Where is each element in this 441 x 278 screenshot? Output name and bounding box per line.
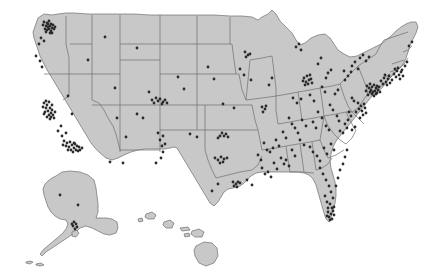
site-dot [386, 84, 389, 87]
site-dot [48, 114, 51, 117]
site-dot [52, 114, 55, 117]
site-dot [333, 149, 336, 152]
site-dot [312, 151, 315, 154]
site-dot [74, 228, 77, 231]
site-dot [246, 179, 249, 182]
site-dot [325, 77, 328, 80]
site-dot [69, 141, 72, 144]
site-dot [122, 162, 125, 165]
site-dot [347, 119, 350, 122]
site-dot [217, 159, 220, 162]
site-dot [41, 66, 44, 69]
site-dot [243, 74, 246, 77]
site-dot [227, 136, 230, 139]
site-dot [73, 221, 76, 224]
site-dot [363, 103, 366, 106]
site-dot [213, 78, 216, 81]
site-dot [359, 57, 362, 60]
site-dot [43, 21, 46, 24]
site-dot [272, 147, 275, 150]
site-dot [332, 109, 335, 112]
site-dot [332, 210, 335, 213]
site-dot [46, 104, 49, 107]
site-dot [333, 206, 336, 209]
site-dot [323, 147, 326, 150]
site-dot [337, 177, 340, 180]
site-dot [245, 56, 248, 59]
site-dot [382, 83, 385, 86]
site-dot [283, 163, 286, 166]
site-dot [326, 201, 329, 204]
site-dot [361, 110, 364, 113]
site-dot [45, 107, 48, 110]
site-dot [350, 115, 353, 118]
site-dot [39, 60, 42, 63]
site-dot [378, 86, 381, 89]
site-dot [62, 144, 65, 147]
site-dot [264, 108, 267, 111]
site-dot [54, 111, 57, 114]
site-dot [311, 82, 314, 85]
site-dot [67, 95, 70, 98]
site-dot [324, 91, 327, 94]
site-dot [51, 109, 54, 112]
site-dot [346, 127, 349, 130]
site-dot [276, 168, 279, 171]
site-dot [136, 47, 139, 50]
site-dot [40, 37, 43, 40]
site-dot [347, 75, 350, 78]
hawaii-inset [138, 212, 218, 266]
site-dot [351, 129, 354, 132]
site-dot [219, 135, 222, 138]
site-dot [324, 195, 327, 198]
site-dot [63, 140, 66, 143]
site-dot [233, 107, 236, 110]
site-dot [331, 218, 334, 221]
site-dot [295, 46, 298, 49]
site-dot [404, 65, 407, 68]
site-dot [343, 70, 346, 73]
site-dot [125, 136, 128, 139]
site-dot [61, 135, 64, 138]
maui-island [191, 229, 204, 237]
site-dot [353, 100, 356, 103]
site-dot [320, 57, 323, 60]
site-dot [87, 59, 90, 62]
site-dot [294, 127, 297, 130]
site-dot [78, 146, 81, 149]
site-dot [47, 23, 50, 26]
site-dot [300, 49, 303, 52]
site-dot [60, 125, 63, 128]
site-dot [362, 54, 365, 57]
alaska-land [40, 171, 118, 256]
site-dot [344, 79, 347, 82]
site-dot [288, 165, 291, 168]
site-dot [350, 71, 353, 74]
site-dot [326, 215, 329, 218]
site-dot [385, 81, 388, 84]
map-svg [0, 0, 441, 278]
site-dot [365, 112, 368, 115]
site-dot [233, 185, 236, 188]
site-dot [355, 111, 358, 114]
site-dot [367, 94, 370, 97]
site-dot [387, 78, 390, 81]
site-dot [223, 135, 226, 138]
site-dot [294, 155, 297, 158]
site-dot [291, 149, 294, 152]
site-dot [354, 126, 357, 129]
site-dot [302, 80, 305, 83]
site-dot [303, 144, 306, 147]
site-dot [217, 183, 220, 186]
site-dot [142, 117, 145, 120]
site-dot [325, 125, 328, 128]
site-dot [399, 78, 402, 81]
site-dot [321, 117, 324, 120]
site-dot [273, 162, 276, 165]
site-dot [267, 171, 270, 174]
site-dot [250, 79, 253, 82]
site-dot [109, 161, 112, 164]
site-dot [344, 123, 347, 126]
site-dot [239, 68, 242, 71]
site-dot [177, 76, 180, 79]
